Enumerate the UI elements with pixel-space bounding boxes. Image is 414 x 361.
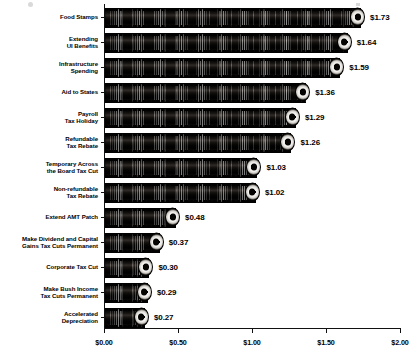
value-label: $1.26: [300, 137, 320, 146]
category-label-line2: the Board Tax Cut: [0, 167, 98, 174]
category-label: Extend AMT Patch: [0, 213, 98, 220]
value-label: $1.03: [266, 162, 286, 171]
value-label: $1.59: [349, 62, 369, 71]
bar-fill: [105, 183, 256, 203]
bar-row: Make Dividend and CapitalGains Tax Cuts …: [0, 229, 414, 254]
category-label-line2: Depreciation: [0, 317, 98, 324]
category-label-line2: Tax Rebate: [0, 142, 98, 149]
value-label: $0.29: [157, 287, 177, 296]
category-label-line1: Temporary Across: [46, 159, 98, 166]
coin-face-icon: [337, 32, 352, 51]
coin-face-icon: [245, 182, 260, 201]
category-label: Make Dividend and CapitalGains Tax Cuts …: [0, 234, 98, 249]
category-label-line1: Corporate Tax Cut: [46, 263, 98, 270]
bar: [105, 58, 340, 76]
coin-face-icon: [295, 82, 310, 101]
category-label-line1: Extending: [69, 34, 98, 41]
category-label: RefundableTax Rebate: [0, 134, 98, 149]
value-label: $1.02: [265, 187, 285, 196]
coin-face-icon: [165, 207, 180, 226]
bar-row: ExtendingUI Benefits$1.64: [0, 29, 414, 54]
bar: [105, 258, 149, 276]
value-label: $1.64: [357, 37, 377, 46]
category-label-line1: Aid to States: [61, 88, 98, 95]
value-label: $0.27: [154, 312, 174, 321]
category-label-line1: Food Stamps: [60, 13, 98, 20]
category-label-line2: Tax Holiday: [0, 117, 98, 124]
bar-row: Corporate Tax Cut$0.30: [0, 254, 414, 279]
category-label: Non-refundableTax Rebate: [0, 184, 98, 199]
bar-fill: [105, 58, 340, 78]
x-axis-tick: [104, 328, 105, 333]
coin-face-icon: [134, 307, 149, 326]
bar: [105, 208, 176, 226]
bar-fill: [105, 133, 291, 153]
value-label: $1.73: [370, 12, 390, 21]
category-label-line1: Refundable: [65, 134, 98, 141]
bar-chart: Food Stamps$1.73ExtendingUI Benefits$1.6…: [0, 0, 414, 361]
category-label: Temporary Acrossthe Board Tax Cut: [0, 159, 98, 174]
bar: [105, 283, 148, 301]
bar: [105, 183, 256, 201]
bar-fill: [105, 158, 257, 178]
value-label: $0.30: [158, 262, 178, 271]
coin-face-icon: [350, 7, 365, 26]
bar: [105, 8, 361, 26]
bar: [105, 133, 291, 151]
coin-face-icon: [137, 282, 152, 301]
bar-row: PayrollTax Holiday$1.29: [0, 104, 414, 129]
bar: [105, 308, 145, 326]
coin-face-icon: [138, 257, 153, 276]
value-label: $1.36: [315, 87, 335, 96]
bar: [105, 33, 348, 51]
category-label-line2: UI Benefits: [0, 42, 98, 49]
bar-row: Food Stamps$1.73: [0, 4, 414, 29]
coin-face-icon: [285, 107, 300, 126]
category-label-line1: Infrastructure: [59, 59, 98, 66]
bar-row: Make Bush IncomeTax Cuts Permanent$0.29: [0, 279, 414, 304]
x-axis-tick-label: $2.00: [378, 338, 414, 347]
category-label-line2: Tax Cuts Permanent: [0, 292, 98, 299]
category-label-line2: Gains Tax Cuts Permanent: [0, 242, 98, 249]
category-label: PayrollTax Holiday: [0, 109, 98, 124]
bar-row: RefundableTax Rebate$1.26: [0, 129, 414, 154]
value-label: $0.37: [169, 237, 189, 246]
bar-fill: [105, 8, 361, 28]
bar-fill: [105, 33, 348, 53]
x-axis-tick-label: $0.50: [156, 338, 200, 347]
category-label: Corporate Tax Cut: [0, 263, 98, 270]
x-axis-tick-label: $0.00: [82, 338, 126, 347]
category-label-line1: Payroll: [78, 109, 98, 116]
bar-row: Extend AMT Patch$0.48: [0, 204, 414, 229]
coin-face-icon: [149, 232, 164, 251]
bar: [105, 83, 306, 101]
category-label-line1: Non-refundable: [54, 184, 98, 191]
category-label: InfrastructureSpending: [0, 59, 98, 74]
value-label: $0.48: [185, 212, 205, 221]
x-axis-tick: [252, 328, 253, 333]
coin-face-icon: [329, 57, 344, 76]
value-label: $1.29: [305, 112, 325, 121]
bar-row: Temporary Acrossthe Board Tax Cut$1.03: [0, 154, 414, 179]
x-axis-tick: [326, 328, 327, 333]
bar: [105, 108, 296, 126]
category-label: Make Bush IncomeTax Cuts Permanent: [0, 284, 98, 299]
category-label-line1: Accelerated: [64, 309, 98, 316]
x-axis-tick-label: $1.50: [304, 338, 348, 347]
coin-face-icon: [280, 132, 295, 151]
bar-row: AcceleratedDepreciation$0.27: [0, 304, 414, 329]
category-label-line1: Extend AMT Patch: [46, 213, 98, 220]
category-label: ExtendingUI Benefits: [0, 34, 98, 49]
x-axis-tick: [400, 328, 401, 333]
category-label: AcceleratedDepreciation: [0, 309, 98, 324]
x-axis-tick: [178, 328, 179, 333]
bar-fill: [105, 83, 306, 103]
bar: [105, 158, 257, 176]
coin-face-icon: [246, 157, 261, 176]
bar: [105, 233, 160, 251]
category-label-line1: Make Dividend and Capital: [22, 234, 98, 241]
x-axis-tick-label: $1.00: [230, 338, 274, 347]
category-label-line2: Spending: [0, 67, 98, 74]
category-label: Food Stamps: [0, 13, 98, 20]
bar-row: InfrastructureSpending$1.59: [0, 54, 414, 79]
